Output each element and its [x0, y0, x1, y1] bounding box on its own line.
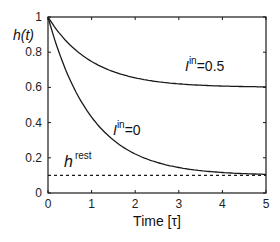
decay-chart: 01234500.20.40.60.81 h(t) Time [τ] Iin=0… [0, 0, 280, 242]
annotation-iin-0-sup: in [117, 119, 125, 130]
x-tick-label: 5 [263, 197, 270, 211]
axis-ticks: 01234500.20.40.60.81 [25, 10, 269, 211]
x-tick-label: 3 [175, 197, 182, 211]
annotation-iin-05: Iin=0.5 [185, 55, 225, 74]
annotation-iin-0-val: =0 [125, 122, 141, 138]
y-tick-label: 0 [35, 186, 42, 200]
y-tick-label: 0.2 [25, 151, 42, 165]
axes-frame [48, 17, 266, 193]
annotation-h-rest: hrest [64, 150, 92, 170]
x-tick-label: 4 [219, 197, 226, 211]
series-line [48, 17, 266, 87]
annotation-iin-05-val: =0.5 [197, 58, 225, 74]
annotation-h-rest-base: h [64, 153, 73, 170]
y-tick-label: 0.6 [25, 80, 42, 94]
y-tick-label: 1 [35, 10, 42, 24]
annotation-h-rest-sup: rest [75, 150, 92, 161]
x-tick-label: 1 [88, 197, 95, 211]
y-axis-label-paren: (t) [21, 27, 34, 43]
annotation-iin-05-sup: in [189, 55, 197, 66]
y-axis-label-main: h [13, 27, 21, 43]
x-tick-label: 0 [45, 197, 52, 211]
x-axis-label: Time [τ] [133, 213, 181, 229]
y-tick-label: 0.8 [25, 45, 42, 59]
y-tick-label: 0.4 [25, 116, 42, 130]
annotation-iin-0: Iin=0 [113, 119, 141, 138]
x-tick-label: 2 [132, 197, 139, 211]
plot-area [48, 17, 266, 193]
y-axis-label: h(t) [13, 27, 34, 43]
